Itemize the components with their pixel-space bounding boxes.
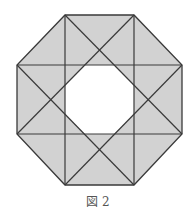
octagon-diagram (0, 0, 193, 212)
figure-caption: 図 2 (0, 192, 193, 209)
